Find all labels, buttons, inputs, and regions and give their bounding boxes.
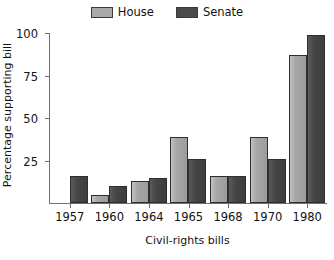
x-tick-mark [109,203,110,208]
x-tick-mark [189,203,190,208]
bar-house-1970 [250,137,268,203]
y-tick-label: 75 [23,71,38,83]
y-axis-title-text: Percentage supporting bill [2,43,14,187]
bar-house-1965 [170,137,188,203]
bar-group-1965 [169,33,209,203]
x-axis-title: Civil-rights bills [49,235,326,247]
x-axis-title-text: Civil-rights bills [145,234,229,247]
legend-label-senate: Senate [203,6,243,18]
y-axis-title: Percentage supporting bill [0,27,16,203]
x-tick-mark [228,203,229,208]
bar-senate-1980 [307,35,325,203]
bar-senate-1965 [188,159,206,203]
bar-group-1957 [50,33,90,203]
x-tick-label-1957: 1957 [55,211,84,224]
x-tick-mark [268,203,269,208]
bar-group-1960 [90,33,130,203]
bar-senate-1968 [228,176,246,203]
x-tick-mark [307,203,308,208]
x-tick-label-1968: 1968 [213,211,242,224]
x-tick-label-1970: 1970 [253,211,282,224]
legend-item-senate: Senate [176,6,243,18]
x-tick-label-1965: 1965 [174,211,203,224]
x-tick-label-1980: 1980 [293,211,322,224]
x-tick-label-1964: 1964 [134,211,163,224]
bar-group-1970 [248,33,288,203]
bar-senate-1960 [109,186,127,203]
chart-legend: House Senate [0,2,334,22]
bar-house-1968 [210,176,228,203]
x-tick-mark [149,203,150,208]
y-tick-label: 100 [16,28,38,40]
legend-item-house: House [91,6,154,18]
bar-group-1964 [129,33,169,203]
y-tick-label: 25 [23,156,38,168]
bar-chart-figure: House Senate Percentage supporting bill … [0,0,334,260]
bar-group-1980 [287,33,327,203]
plot-area: 255075100 1957196019641965196819701980 [49,33,327,204]
bar-senate-1957 [70,176,88,203]
legend-label-house: House [118,6,154,18]
bar-senate-1970 [268,159,286,203]
x-tick-label-1960: 1960 [95,211,124,224]
x-tick-mark [70,203,71,208]
house-swatch-icon [91,7,113,18]
senate-swatch-icon [176,7,198,18]
bar-house-1980 [289,55,307,203]
bar-senate-1964 [149,178,167,204]
y-tick-label: 50 [23,113,38,125]
bar-house-1964 [131,181,149,203]
bar-group-1968 [208,33,248,203]
bars-layer [50,33,327,203]
bar-house-1960 [91,195,109,204]
